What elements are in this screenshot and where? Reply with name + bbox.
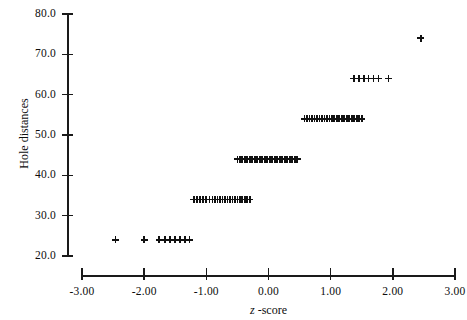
data-point (221, 196, 228, 203)
data-point (306, 115, 313, 122)
data-point-layer (0, 0, 467, 320)
data-point (217, 196, 224, 203)
data-point (244, 196, 251, 203)
data-point (375, 75, 382, 82)
data-point (274, 156, 281, 163)
data-point (244, 156, 251, 163)
data-point (311, 115, 318, 122)
data-point (356, 115, 363, 122)
x-axis-title-rest: -score (255, 303, 287, 317)
data-point (141, 236, 148, 243)
data-point (200, 196, 207, 203)
data-point (321, 115, 328, 122)
data-point (236, 156, 243, 163)
data-point (177, 236, 184, 243)
data-point (294, 156, 301, 163)
data-point (246, 156, 253, 163)
data-point (276, 156, 283, 163)
data-point (370, 75, 377, 82)
data-point (219, 196, 226, 203)
data-point (326, 115, 333, 122)
data-point (212, 196, 219, 203)
data-point (301, 115, 308, 122)
data-point (333, 115, 340, 122)
data-point (365, 75, 372, 82)
data-point (266, 156, 273, 163)
data-point (194, 196, 201, 203)
data-point (316, 115, 323, 122)
data-point (234, 156, 241, 163)
data-point (182, 236, 189, 243)
data-point (231, 196, 238, 203)
data-point (328, 115, 335, 122)
data-point (281, 156, 288, 163)
data-point (264, 156, 271, 163)
data-point (341, 115, 348, 122)
data-point (336, 115, 343, 122)
data-point (351, 115, 358, 122)
data-point (226, 196, 233, 203)
data-point (385, 75, 392, 82)
data-point (197, 196, 204, 203)
data-point (112, 236, 119, 243)
data-point (353, 115, 360, 122)
data-point (271, 156, 278, 163)
data-point (236, 196, 243, 203)
data-point (241, 156, 248, 163)
data-point (346, 115, 353, 122)
data-point (203, 196, 210, 203)
data-point (214, 196, 221, 203)
data-point (284, 156, 291, 163)
data-point (206, 196, 213, 203)
data-point (343, 115, 350, 122)
data-point (161, 236, 168, 243)
data-point (241, 196, 248, 203)
data-point (279, 156, 286, 163)
data-point (186, 236, 193, 243)
data-point (251, 156, 258, 163)
data-point (172, 236, 179, 243)
data-point (239, 196, 246, 203)
data-point (318, 115, 325, 122)
data-point (348, 115, 355, 122)
data-point (156, 236, 163, 243)
data-point (313, 115, 320, 122)
data-point (309, 115, 316, 122)
data-point (167, 236, 174, 243)
data-point (254, 156, 261, 163)
data-point (261, 156, 268, 163)
y-axis-title: Hole distances (17, 84, 32, 184)
data-point (246, 196, 253, 203)
data-point (259, 156, 266, 163)
data-point (360, 75, 367, 82)
data-point (350, 75, 357, 82)
data-point (209, 196, 216, 203)
data-point (269, 156, 276, 163)
data-point (304, 115, 311, 122)
data-point (190, 196, 197, 203)
data-point (289, 156, 296, 163)
data-point (234, 196, 241, 203)
data-point (256, 156, 263, 163)
data-point (224, 196, 231, 203)
data-point (239, 156, 246, 163)
data-point (338, 115, 345, 122)
scatter-plot-figure: 20.030.040.050.060.070.080.0 -3.00-2.00-… (0, 0, 467, 320)
data-point (286, 156, 293, 163)
data-point (291, 156, 298, 163)
data-point (358, 115, 365, 122)
data-point (417, 35, 424, 42)
data-point (323, 115, 330, 122)
data-point (331, 115, 338, 122)
data-point (355, 75, 362, 82)
data-point (249, 156, 256, 163)
x-axis-title: z -score (219, 303, 319, 318)
data-point (229, 196, 236, 203)
